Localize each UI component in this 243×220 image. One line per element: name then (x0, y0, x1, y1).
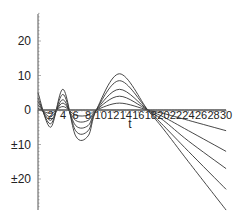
y-tick-label: ±20 (11, 172, 31, 186)
y-tick-label: ±10 (11, 138, 31, 152)
y-tick-label: 0 (24, 103, 31, 117)
x-tick-labels: 24681012141618202224262830 (47, 109, 232, 121)
chart: 24681012141618202224262830 20100±10±20 t (0, 0, 243, 220)
y-tick-labels: 20100±10±20 (11, 34, 31, 186)
y-tick-label: 20 (18, 34, 32, 48)
y-tick-label: 10 (18, 69, 32, 83)
line-plot: 24681012141618202224262830 20100±10±20 t (0, 0, 243, 220)
curves (38, 74, 226, 210)
series-line-curve-5 (38, 74, 226, 210)
